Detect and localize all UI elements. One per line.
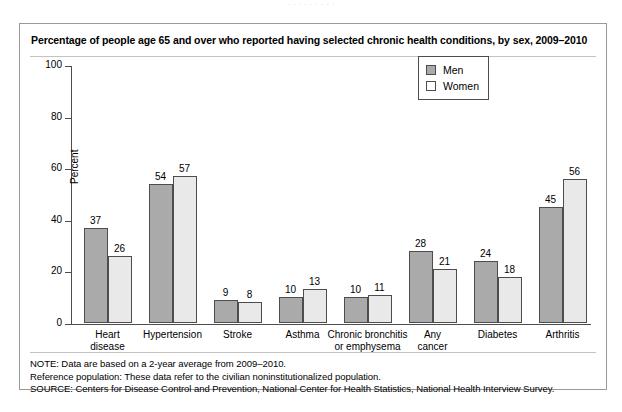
bar-men: 37 bbox=[84, 228, 108, 323]
legend-label-women: Women bbox=[443, 80, 479, 92]
y-tick-mark bbox=[65, 324, 71, 325]
bar-value-label: 10 bbox=[285, 284, 296, 295]
bar-men: 10 bbox=[344, 297, 368, 323]
legend-label-men: Men bbox=[443, 64, 463, 76]
y-tick-label: 100 bbox=[31, 59, 62, 70]
y-axis-line bbox=[71, 66, 72, 325]
legend-swatch-men-icon bbox=[426, 65, 436, 75]
source-line: SOURCE: Centers for Disease Control and … bbox=[30, 383, 600, 396]
note-line: NOTE: Data are based on a 2-year average… bbox=[30, 358, 600, 371]
bar-value-label: 9 bbox=[223, 287, 229, 298]
y-tick-mark bbox=[65, 169, 71, 170]
bar-women: 13 bbox=[303, 289, 327, 323]
bar-women: 11 bbox=[368, 295, 392, 323]
legend-item-men: Men bbox=[426, 62, 479, 78]
footer-divider bbox=[30, 352, 596, 353]
y-tick-label: 20 bbox=[31, 265, 62, 276]
y-tick-mark bbox=[65, 118, 71, 119]
x-axis-category-line: Arthritis bbox=[546, 329, 580, 341]
x-axis-category-line: Diabetes bbox=[478, 329, 517, 341]
x-axis-category-line: Asthma bbox=[286, 329, 320, 341]
bar-women: 26 bbox=[108, 256, 132, 323]
bar-value-label: 54 bbox=[155, 171, 166, 182]
x-axis-category-label: Stroke bbox=[223, 329, 252, 341]
bar-value-label: 18 bbox=[504, 264, 515, 275]
bar-value-label: 28 bbox=[415, 238, 426, 249]
bar-value-label: 8 bbox=[247, 289, 253, 300]
x-axis-line bbox=[71, 324, 591, 325]
bar-men: 45 bbox=[539, 207, 563, 323]
y-tick-label: 80 bbox=[31, 111, 62, 122]
bar-group: 5457Hypertension bbox=[149, 65, 197, 323]
y-tick-mark bbox=[65, 272, 71, 273]
bar-chart: Percent 020406080100 3726Heartdisease545… bbox=[20, 24, 606, 389]
bar-women: 56 bbox=[563, 179, 587, 323]
x-axis-category-line: Heart bbox=[90, 329, 124, 341]
bar-group: 2418Diabetes bbox=[474, 65, 522, 323]
bar-value-label: 10 bbox=[350, 284, 361, 295]
bar-men: 10 bbox=[279, 297, 303, 323]
bar-group: 1011Chronic bronchitisor emphysema bbox=[344, 65, 392, 323]
x-axis-category-line: Stroke bbox=[223, 329, 252, 341]
bar-value-label: 26 bbox=[114, 243, 125, 254]
bar-men: 24 bbox=[474, 261, 498, 323]
plot-area: Percent 020406080100 3726Heartdisease545… bbox=[71, 66, 591, 324]
y-tick-label: 60 bbox=[31, 162, 62, 173]
legend-swatch-women-icon bbox=[426, 81, 436, 91]
bar-value-label: 45 bbox=[545, 194, 556, 205]
chart-panel: Percentage of people age 65 and over who… bbox=[19, 23, 607, 390]
x-axis-category-label: Hypertension bbox=[143, 329, 202, 341]
y-tick-mark bbox=[65, 66, 71, 67]
bar-men: 9 bbox=[214, 300, 238, 323]
y-tick-label: 40 bbox=[31, 214, 62, 225]
bar-group: 98Stroke bbox=[214, 65, 262, 323]
x-axis-category-line: disease bbox=[90, 341, 124, 353]
bar-value-label: 24 bbox=[480, 248, 491, 259]
chart-footnotes: NOTE: Data are based on a 2-year average… bbox=[30, 358, 600, 396]
x-axis-category-label: Diabetes bbox=[478, 329, 517, 341]
x-axis-category-label: Asthma bbox=[286, 329, 320, 341]
bar-value-label: 13 bbox=[309, 276, 320, 287]
bar-value-label: 11 bbox=[374, 282, 384, 293]
chart-legend: Men Women bbox=[418, 56, 489, 100]
x-axis-category-line: cancer bbox=[417, 341, 447, 353]
bar-women: 8 bbox=[238, 302, 262, 323]
x-axis-category-line: Any bbox=[417, 329, 447, 341]
bar-women: 21 bbox=[433, 269, 457, 323]
y-tick-label: 0 bbox=[31, 317, 62, 328]
x-axis-category-label: Chronic bronchitisor emphysema bbox=[327, 329, 407, 352]
bar-group: 4556Arthritis bbox=[539, 65, 587, 323]
x-axis-category-label: Anycancer bbox=[417, 329, 447, 352]
x-axis-category-label: Heartdisease bbox=[90, 329, 124, 352]
bar-group: 3726Heartdisease bbox=[84, 65, 132, 323]
bar-women: 18 bbox=[498, 277, 522, 323]
y-tick-mark bbox=[65, 221, 71, 222]
x-axis-category-line: or emphysema bbox=[327, 341, 407, 353]
x-axis-category-label: Arthritis bbox=[546, 329, 580, 341]
bar-women: 57 bbox=[173, 176, 197, 323]
bar-value-label: 37 bbox=[90, 215, 101, 226]
bar-men: 54 bbox=[149, 184, 173, 323]
bar-group: 2821Anycancer bbox=[409, 65, 457, 323]
cut-off-header-text: · · · · · · · · · bbox=[0, 0, 622, 10]
x-axis-category-line: Chronic bronchitis bbox=[327, 329, 407, 341]
bar-men: 28 bbox=[409, 251, 433, 323]
y-axis-title: Percent bbox=[69, 150, 80, 184]
reference-population-line: Reference population: These data refer t… bbox=[30, 371, 600, 384]
bar-group: 1013Asthma bbox=[279, 65, 327, 323]
x-axis-category-line: Hypertension bbox=[143, 329, 202, 341]
bar-value-label: 21 bbox=[439, 256, 450, 267]
bar-value-label: 57 bbox=[179, 163, 190, 174]
legend-item-women: Women bbox=[426, 78, 479, 94]
bar-value-label: 56 bbox=[569, 166, 580, 177]
